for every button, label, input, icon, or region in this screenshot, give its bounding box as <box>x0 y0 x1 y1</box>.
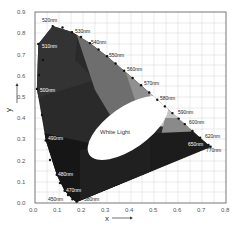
label-550: 550nm <box>109 52 124 58</box>
label-590: 590nm <box>178 109 193 115</box>
svg-text:0.6: 0.6 <box>173 207 182 213</box>
label-380: 380nm <box>84 196 99 202</box>
label-540: 540nm <box>91 39 106 45</box>
svg-text:y: y <box>4 108 13 112</box>
arrow-up-icon <box>16 83 19 86</box>
label-530: 530nm <box>75 28 90 34</box>
label-500: 500nm <box>40 87 55 93</box>
svg-text:0.1: 0.1 <box>53 207 62 213</box>
label-470: 470nm <box>66 187 81 193</box>
label-450: 450nm <box>48 196 63 202</box>
svg-text:0.0: 0.0 <box>17 200 26 206</box>
svg-text:0.3: 0.3 <box>101 207 110 213</box>
svg-text:0.5: 0.5 <box>17 94 26 100</box>
svg-text:0.5: 0.5 <box>149 207 158 213</box>
svg-text:0.9: 0.9 <box>17 9 26 15</box>
label-520: 520nm <box>42 17 57 23</box>
svg-text:0.2: 0.2 <box>77 207 86 213</box>
label-620: 620nm <box>205 133 220 139</box>
svg-text:0.7: 0.7 <box>197 207 206 213</box>
svg-text:0.8: 0.8 <box>221 207 230 213</box>
label-650: 650nm <box>188 141 203 147</box>
chromaticity-diagram: 520nm 530nm 540nm 550nm 560nm 570nm 580n… <box>0 0 243 231</box>
label-570: 570nm <box>144 80 159 86</box>
white-light-label: White Light <box>100 129 130 135</box>
svg-text:0.2: 0.2 <box>17 158 26 164</box>
label-580: 580nm <box>160 95 175 101</box>
label-770: 770nm <box>206 147 221 153</box>
svg-text:0.1: 0.1 <box>17 179 26 185</box>
arrow-right-icon <box>130 217 133 220</box>
x-axis-label: x <box>105 214 133 223</box>
label-560: 560nm <box>127 66 142 72</box>
svg-text:0.3: 0.3 <box>17 136 26 142</box>
label-600: 600nm <box>189 119 204 125</box>
svg-text:0.7: 0.7 <box>17 52 26 58</box>
svg-text:0.6: 0.6 <box>17 73 26 79</box>
svg-text:0.4: 0.4 <box>17 115 26 121</box>
label-510: 510nm <box>42 43 57 49</box>
y-axis-ticks: 0.0 0.1 0.2 0.3 0.4 0.5 0.6 0.7 0.8 0.9 <box>17 9 26 206</box>
svg-text:x: x <box>105 214 109 223</box>
label-480: 480nm <box>58 171 73 177</box>
svg-text:0.4: 0.4 <box>125 207 134 213</box>
label-490: 490nm <box>48 135 63 141</box>
svg-text:0.0: 0.0 <box>29 207 38 213</box>
svg-text:0.8: 0.8 <box>17 30 26 36</box>
x-axis-ticks: 0.0 0.1 0.2 0.3 0.4 0.5 0.6 0.7 0.8 <box>29 207 230 213</box>
